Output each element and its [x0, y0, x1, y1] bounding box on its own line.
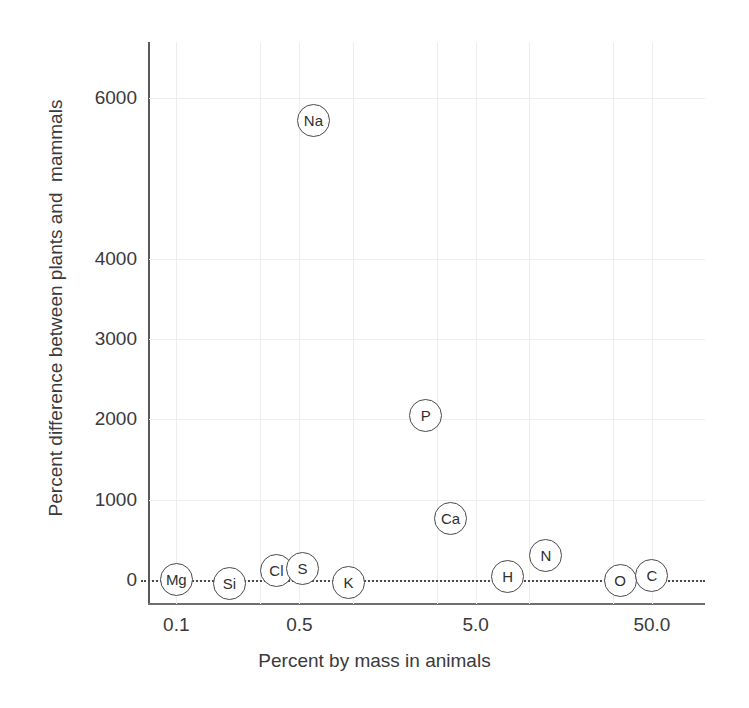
data-point-s: S — [286, 552, 319, 585]
gridline-vertical — [652, 42, 653, 604]
data-point-mg: Mg — [160, 563, 193, 596]
gridline-vertical — [476, 42, 477, 604]
plot-area: 010002000300040006000 0.10.55.050.0 MgSi… — [149, 42, 705, 604]
data-point-ca: Ca — [434, 502, 467, 535]
y-tick-label: 2000 — [95, 408, 137, 430]
gridline-vertical — [613, 42, 614, 604]
data-point-si: Si — [213, 567, 246, 600]
gridline-horizontal — [149, 339, 705, 340]
clipped-header-remnant — [0, 0, 749, 12]
x-tick-label: 0.1 — [163, 614, 189, 636]
data-point-n: N — [529, 539, 562, 572]
data-point-k: K — [332, 566, 365, 599]
x-axis-spine — [148, 603, 705, 605]
x-tick-label: 0.5 — [286, 614, 312, 636]
data-point-c: C — [635, 559, 668, 592]
gridline-horizontal — [149, 259, 705, 260]
y-tick-label: 0 — [126, 569, 137, 591]
gridline-horizontal — [149, 500, 705, 501]
x-tick-label: 5.0 — [462, 614, 488, 636]
data-point-p: P — [409, 399, 442, 432]
gridline-vertical — [176, 42, 177, 604]
gridline-vertical — [529, 42, 530, 604]
y-tick-label: 4000 — [95, 248, 137, 270]
gridline-horizontal — [149, 98, 705, 99]
data-point-na: Na — [297, 104, 330, 137]
gridline-vertical — [353, 42, 354, 604]
data-point-o: O — [604, 564, 637, 597]
y-tick-label: 6000 — [95, 87, 137, 109]
scatter-plot-figure: Percent difference between plants and ma… — [0, 0, 749, 708]
data-point-h: H — [491, 560, 524, 593]
y-tick-label: 1000 — [95, 489, 137, 511]
x-axis-title: Percent by mass in animals — [0, 650, 749, 672]
y-axis-title: Percent difference between plants and ma… — [45, 38, 67, 578]
y-axis-spine — [148, 42, 150, 604]
gridline-vertical — [260, 42, 261, 604]
y-tick-label: 3000 — [95, 328, 137, 350]
x-tick-label: 50.0 — [633, 614, 670, 636]
